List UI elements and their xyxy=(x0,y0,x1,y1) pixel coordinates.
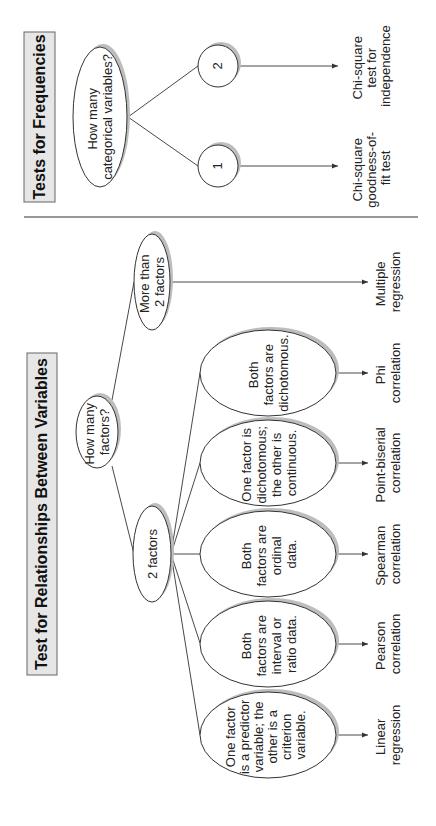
question-text: How many factors? xyxy=(82,399,112,464)
branch-label: More than 2 factors xyxy=(137,251,167,313)
result-linear-regression: Linear regression xyxy=(373,705,403,766)
relationships-section: Test for Relationships Between Variables… xyxy=(27,231,403,778)
connector xyxy=(171,463,200,554)
connector xyxy=(128,66,198,117)
result-multiple-regression: Multiple regression xyxy=(373,252,403,313)
connector xyxy=(171,373,200,554)
connector xyxy=(112,466,134,554)
result-chi-square-independence: Chi-square test for independence xyxy=(350,25,393,107)
result-chi-square-goodness-of-fit: Chi-square goodness-of- fit test xyxy=(350,128,393,208)
condition-node-dichotomous: Both factors are dichotomous. xyxy=(200,327,339,416)
option-label: 2 xyxy=(210,62,225,69)
connector xyxy=(112,282,134,400)
condition-node-predictor-criterion: One factor is a predictor variable; the … xyxy=(200,689,339,778)
condition-node-interval-ratio: Both factors are interval or ratio data. xyxy=(200,598,339,687)
branch-label: 2 factors xyxy=(145,529,160,579)
connector xyxy=(128,117,198,166)
relationships-title: Test for Relationships Between Variables xyxy=(33,358,50,670)
result-phi-correlation: Phi correlation xyxy=(373,343,403,404)
connector xyxy=(171,554,200,735)
condition-node-dichotomous-continuous: One factor is dichotomous; the other is … xyxy=(200,417,339,506)
svg-text:One factor is dichotom: One factor is dichotomous; the other is … xyxy=(239,423,299,504)
frequencies-title: Tests for Frequencies xyxy=(31,34,48,199)
connector xyxy=(171,554,200,643)
result-point-biserial-correlation: Point-biserial correlation xyxy=(373,424,403,503)
result-spearman-correlation: Spearman correlation xyxy=(373,522,403,586)
option-label: 1 xyxy=(210,162,225,169)
statistics-decision-diagram: Tests for Frequencies How many categoric… xyxy=(0,0,436,826)
result-pearson-correlation: Pearson correlation xyxy=(373,614,403,675)
condition-node-ordinal: Both factors are ordinal data. xyxy=(200,508,339,597)
frequencies-section: Tests for Frequencies How many categoric… xyxy=(24,25,393,208)
